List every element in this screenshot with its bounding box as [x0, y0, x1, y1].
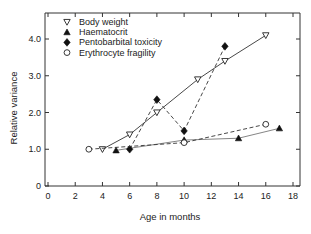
legend-item: Haematocrit — [64, 27, 128, 37]
line-chart: 02468101214161801.02.03.04.0 Body weight… — [0, 0, 311, 234]
x-tick-label: 2 — [73, 191, 78, 201]
x-tick-label: 8 — [154, 191, 159, 201]
filled-diamond-icon — [222, 43, 228, 51]
x-tick-label: 6 — [127, 191, 132, 201]
y-tick-label: 2.0 — [28, 108, 41, 118]
y-tick-label: 3.0 — [28, 71, 41, 81]
series-haematocrit — [113, 125, 283, 153]
filled-triangle-icon — [276, 125, 282, 131]
x-tick-label: 16 — [261, 191, 271, 201]
legend: Body weightHaematocritPentobarbital toxi… — [64, 17, 163, 58]
filled-triangle-icon — [64, 29, 70, 35]
filled-diamond-icon — [64, 39, 70, 47]
series-line — [116, 128, 279, 150]
legend-label: Body weight — [79, 17, 129, 27]
legend-item: Pentobarbital toxicity — [64, 37, 163, 47]
legend-item: Erythrocyte fragility — [64, 48, 156, 58]
open-triangle-down-icon — [263, 33, 269, 39]
x-tick-label: 18 — [288, 191, 298, 201]
legend-label: Pentobarbital toxicity — [79, 37, 163, 47]
open-circle-icon — [263, 121, 269, 127]
open-triangle-down-icon — [99, 147, 105, 153]
open-triangle-down-icon — [126, 132, 132, 138]
series-erythrocyte-fragility — [86, 121, 269, 152]
x-tick-label: 10 — [179, 191, 189, 201]
legend-item: Body weight — [64, 17, 129, 27]
y-tick-label: 1.0 — [28, 144, 41, 154]
x-tick-label: 0 — [45, 191, 50, 201]
series-line — [130, 46, 225, 149]
legend-label: Haematocrit — [79, 27, 128, 37]
x-axis-label: Age in months — [140, 211, 201, 222]
y-axis-label: Relative variance — [8, 72, 19, 145]
x-tick-label: 4 — [100, 191, 105, 201]
legend-label: Erythrocyte fragility — [79, 48, 156, 58]
y-tick-label: 0 — [36, 181, 41, 191]
x-tick-label: 14 — [234, 191, 244, 201]
open-circle-icon — [86, 146, 92, 152]
open-circle-icon — [64, 50, 70, 56]
chart-container: 02468101214161801.02.03.04.0 Body weight… — [0, 0, 311, 234]
open-triangle-down-icon — [222, 58, 228, 64]
x-tick-label: 12 — [206, 191, 216, 201]
y-tick-label: 4.0 — [28, 34, 41, 44]
open-triangle-down-icon — [64, 19, 70, 25]
open-circle-icon — [181, 140, 187, 146]
